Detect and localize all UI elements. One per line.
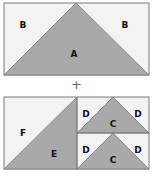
quilt-block-diagram: B B A + F E D C D D C D <box>0 0 153 179</box>
top-panel: B B A <box>4 3 149 75</box>
label-d-upper-right: D <box>134 109 141 119</box>
plus-operator: + <box>71 77 82 92</box>
label-b-right: B <box>122 20 129 30</box>
label-b-left: B <box>20 20 27 30</box>
label-c-upper: C <box>110 119 117 129</box>
label-f: F <box>20 128 26 138</box>
label-c-lower: C <box>110 155 117 165</box>
label-d-upper-left: D <box>82 109 89 119</box>
bottom-panel: F E D C D D C D <box>4 97 149 169</box>
label-a: A <box>71 49 78 59</box>
label-d-lower-left: D <box>82 145 89 155</box>
label-e: E <box>51 149 57 159</box>
label-d-lower-right: D <box>134 145 141 155</box>
